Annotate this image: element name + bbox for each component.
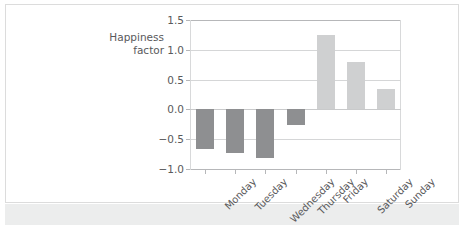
gridline-y xyxy=(190,50,401,51)
gridline-y xyxy=(190,80,401,81)
y-tick-label: −0.5 xyxy=(159,133,185,145)
y-tick-label: 0.5 xyxy=(167,74,184,86)
y-tick-mark xyxy=(186,109,190,110)
y-tick-label: 1.5 xyxy=(167,14,184,26)
y-tick-mark xyxy=(186,20,190,21)
bar-saturday xyxy=(347,62,365,109)
y-tick-mark xyxy=(186,139,190,140)
plot-area: 1.51.00.50.0−0.5−1.0 xyxy=(190,20,401,170)
y-axis-title: Happiness factor xyxy=(92,31,164,56)
plot-left-border xyxy=(190,20,191,170)
bar-thursday xyxy=(287,109,305,125)
x-axis-labels: MondayTuesdayWednesdayThursdayFridaySatu… xyxy=(190,170,420,218)
bar-chart: Happiness factor 1.51.00.50.0−0.5−1.0 Mo… xyxy=(0,0,464,225)
bar-wednesday xyxy=(256,109,274,157)
gridline-y xyxy=(190,139,401,140)
bar-sunday xyxy=(377,89,395,110)
bar-monday xyxy=(196,109,214,149)
y-tick-mark xyxy=(186,50,190,51)
y-tick-label: −1.0 xyxy=(159,163,185,175)
x-tick-label-monday: Monday xyxy=(223,176,259,212)
y-tick-label: 1.0 xyxy=(167,44,184,56)
y-tick-mark xyxy=(186,80,190,81)
plot-top-border xyxy=(190,20,401,21)
y-tick-label: 0.0 xyxy=(167,103,184,115)
bar-friday xyxy=(317,35,335,110)
x-tick-label-tuesday: Tuesday xyxy=(253,176,290,213)
plot-right-border xyxy=(400,20,401,170)
figure-page: Happiness factor 1.51.00.50.0−0.5−1.0 Mo… xyxy=(0,0,464,225)
bar-tuesday xyxy=(226,109,244,153)
